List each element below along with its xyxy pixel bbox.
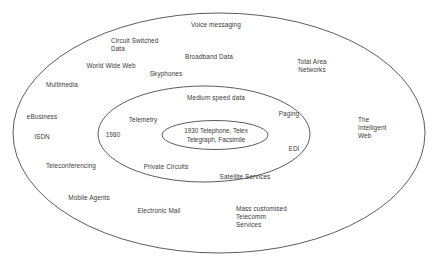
label-total-area-networks: Total Area Networks xyxy=(297,58,326,74)
label-core-1930-telephone-telex-telegraph-facsimile: 1930 Telephone, Telex Telegraph, Facsimi… xyxy=(184,127,248,144)
label-broadband-data: Broadband Data xyxy=(185,53,233,61)
label-teleconferencing: Teleconferencing xyxy=(46,162,96,170)
label-private-circuits: Private Circuits xyxy=(144,163,189,171)
label-world-wide-web: World Wide Web xyxy=(86,62,135,70)
label-multimedia: Multimedia xyxy=(46,81,78,89)
label-isdn: ISDN xyxy=(34,133,50,141)
diagram-canvas: Voice messaging Circuit Switched Data Br… xyxy=(0,0,441,266)
label-medium-speed-data: Medium speed data xyxy=(187,94,245,102)
label-telemetry: Telemetry xyxy=(129,116,158,124)
label-the-intelligent-web: The Intelligent Web xyxy=(358,116,386,141)
label-mobile-agents: Mobile Agents xyxy=(68,194,109,202)
label-mass-customised-telecomm-services: Mass customised Telecomm Services xyxy=(236,205,287,230)
label-satellite-services: Satellite Services xyxy=(220,173,271,181)
label-edi: EDI xyxy=(289,145,300,153)
label-paging: Paging xyxy=(279,110,300,118)
label-voice-messaging: Voice messaging xyxy=(191,21,241,29)
label-circuit-switched-data: Circuit Switched Data xyxy=(111,37,158,53)
label-ebusiness: eBusiness xyxy=(27,113,57,121)
label-era-1980: 1980 xyxy=(106,131,121,139)
label-skyphones: Skyphones xyxy=(150,70,183,78)
label-electronic-mail: Electronic Mail xyxy=(137,207,180,215)
